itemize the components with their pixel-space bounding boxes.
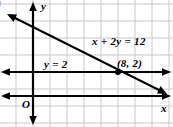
origin-label: O <box>22 99 30 110</box>
equation-line-label: x + 2y = 12 <box>92 36 146 47</box>
horizontal-line-y-equals-2 <box>1 68 171 76</box>
diagonal-line-x-plus-2y-equals-12 <box>7 14 167 94</box>
y-axis <box>29 2 37 125</box>
y-axis-label: y <box>41 1 46 12</box>
intersection-point-label: (8, 2) <box>117 58 142 69</box>
coordinate-graph-figure: ) <box>0 0 173 127</box>
x-axis-label: x <box>161 103 167 114</box>
intersection-point-marker <box>115 69 121 75</box>
horizontal-line-label: y = 2 <box>44 59 68 70</box>
